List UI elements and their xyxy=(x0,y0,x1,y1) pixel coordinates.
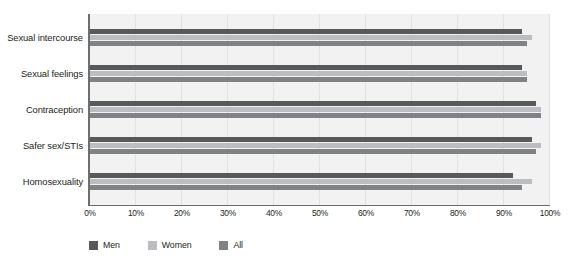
bar-men-3 xyxy=(90,137,532,142)
bar-all-1 xyxy=(90,77,527,82)
bar-women-3 xyxy=(90,143,541,148)
category-label: Sexual intercourse xyxy=(0,32,83,43)
bar-women-0 xyxy=(90,35,532,40)
bar-women-1 xyxy=(90,71,527,76)
legend-label: Men xyxy=(103,240,120,250)
x-tick-label: 50% xyxy=(300,208,340,218)
bar-all-4 xyxy=(90,185,522,190)
x-tick-label: 90% xyxy=(484,208,524,218)
bar-women-4 xyxy=(90,179,532,184)
legend-label: All xyxy=(233,240,242,250)
x-tick-label: 80% xyxy=(438,208,478,218)
category-label: Sexual feelings xyxy=(0,68,83,79)
x-tick-label: 100% xyxy=(530,208,568,218)
x-tick-label: 60% xyxy=(346,208,386,218)
bar-all-0 xyxy=(90,41,527,46)
x-axis-line xyxy=(88,205,550,206)
bar-women-2 xyxy=(90,107,541,112)
x-tick-label: 30% xyxy=(208,208,248,218)
category-label: Safer sex/STIs xyxy=(0,140,83,151)
legend-swatch-icon xyxy=(219,241,228,250)
bar-all-2 xyxy=(90,113,541,118)
bar-men-2 xyxy=(90,101,536,106)
x-tick-label: 10% xyxy=(116,208,156,218)
category-label: Contraception xyxy=(0,104,83,115)
legend-item-women[interactable]: Women xyxy=(148,240,192,250)
chart-legend: MenWomenAll xyxy=(89,238,271,252)
legend-swatch-icon xyxy=(89,241,98,250)
bar-men-0 xyxy=(90,29,522,34)
legend-swatch-icon xyxy=(148,241,157,250)
x-tick-label: 40% xyxy=(254,208,294,218)
x-tick-label: 70% xyxy=(392,208,432,218)
x-tick-label: 0% xyxy=(70,208,110,218)
bar-men-1 xyxy=(90,65,522,70)
x-tick-label: 20% xyxy=(162,208,202,218)
horizontal-bar-chart: Sexual intercourseSexual feelingsContrac… xyxy=(0,0,568,260)
legend-item-men[interactable]: Men xyxy=(89,240,120,250)
gridline xyxy=(549,14,550,205)
bar-all-3 xyxy=(90,149,536,154)
legend-label: Women xyxy=(162,240,192,250)
category-label: Homosexuality xyxy=(0,176,83,187)
bar-men-4 xyxy=(90,173,513,178)
legend-item-all[interactable]: All xyxy=(219,240,242,250)
